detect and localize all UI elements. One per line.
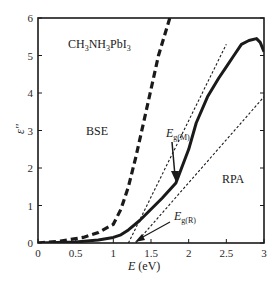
series-tangent-eg-r-fit: [136, 97, 264, 243]
axes: 00.511.522.530123456: [28, 12, 268, 259]
rpa-label: RPA: [222, 172, 245, 186]
x-tick-label: 2: [186, 247, 192, 259]
y-tick-label: 5: [28, 50, 34, 62]
x-tick-label: 1: [111, 247, 117, 259]
y-tick-label: 2: [28, 162, 34, 174]
x-tick-label: 2.5: [219, 247, 233, 259]
y-tick-label: 6: [28, 12, 34, 24]
y-tick-label: 0: [28, 237, 34, 249]
y-tick-label: 3: [28, 125, 34, 137]
x-tick-label: 1.5: [144, 247, 158, 259]
y-tick-label: 1: [28, 200, 34, 212]
compound-label: CH3NH3PbI3: [68, 37, 131, 53]
x-tick-label: 0.5: [69, 247, 83, 259]
series-rpa: [38, 39, 264, 243]
x-tick-label: 0: [35, 247, 41, 259]
eg-r-arrow: [135, 222, 170, 242]
x-axis-label: E (eV): [127, 259, 160, 273]
y-axis-label: ε'': [13, 124, 27, 134]
x-tick-label: 3: [261, 247, 267, 259]
eg-m-label: Eg(M): [165, 126, 190, 142]
eg-r-label: Eg(R): [173, 209, 196, 225]
chart: 00.511.522.530123456 CH3NH3PbI3 BSE RPA …: [0, 0, 280, 285]
plot-area: [38, 18, 264, 243]
bse-label: BSE: [86, 124, 108, 138]
y-tick-label: 4: [28, 87, 34, 99]
